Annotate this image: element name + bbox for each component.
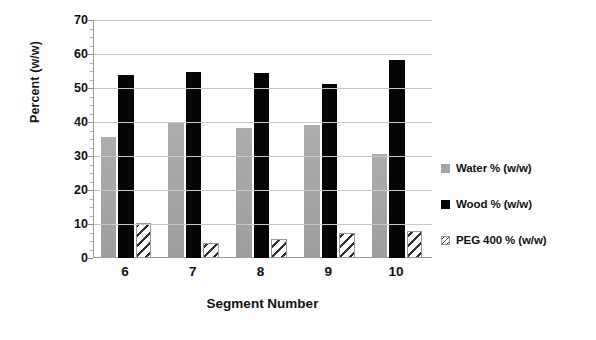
bar-water-9 bbox=[304, 125, 320, 258]
legend-item-water[interactable]: Water % (w/w) bbox=[441, 150, 593, 186]
bar-peg-10 bbox=[407, 231, 423, 258]
y-minor-tick bbox=[90, 46, 94, 47]
y-minor-tick bbox=[90, 207, 94, 208]
chart-legend: Water % (w/w)Wood % (w/w)PEG 400 % (w/w) bbox=[441, 150, 593, 258]
y-minor-tick bbox=[90, 182, 94, 183]
bar-peg-9 bbox=[339, 233, 355, 258]
y-minor-tick bbox=[90, 216, 94, 217]
y-minor-tick bbox=[90, 241, 94, 242]
bar-peg-8 bbox=[271, 239, 287, 258]
y-minor-tick bbox=[90, 173, 94, 174]
y-tick-label-50: 50 bbox=[55, 81, 88, 95]
y-major-tick-10 bbox=[87, 224, 93, 225]
y-major-tick-20 bbox=[87, 190, 93, 191]
y-major-tick-40 bbox=[87, 122, 93, 123]
bar-wood-7 bbox=[186, 72, 202, 258]
bar-wood-8 bbox=[254, 73, 270, 258]
y-major-tick-0 bbox=[87, 258, 93, 259]
gridline-10 bbox=[94, 224, 432, 225]
x-tick-label-9: 9 bbox=[325, 264, 333, 279]
y-minor-tick bbox=[90, 139, 94, 140]
y-minor-tick bbox=[90, 97, 94, 98]
bar-wood-6 bbox=[118, 75, 134, 258]
y-axis-tick-labels: 010203040506070 bbox=[55, 20, 88, 258]
x-tick-label-8: 8 bbox=[257, 264, 265, 279]
wood-swatch-icon bbox=[441, 200, 450, 209]
bar-group-6 bbox=[101, 20, 152, 258]
bar-group-9 bbox=[304, 20, 355, 258]
bar-chart: Percent (w/w) 010203040506070 678910 Seg… bbox=[0, 0, 596, 340]
gridline-60 bbox=[94, 54, 432, 55]
y-minor-tick bbox=[90, 250, 94, 251]
x-axis-tick-labels: 678910 bbox=[93, 264, 432, 286]
gridline-30 bbox=[94, 156, 432, 157]
gridline-50 bbox=[94, 88, 432, 89]
peg-swatch-icon bbox=[441, 236, 450, 245]
y-major-tick-70 bbox=[87, 20, 93, 21]
y-minor-tick bbox=[90, 63, 94, 64]
y-tick-label-20: 20 bbox=[55, 183, 88, 197]
bar-group-8 bbox=[236, 20, 287, 258]
legend-item-wood[interactable]: Wood % (w/w) bbox=[441, 186, 593, 222]
x-axis-title: Segment Number bbox=[93, 296, 432, 311]
y-tick-label-0: 0 bbox=[55, 251, 88, 265]
y-major-tick-60 bbox=[87, 54, 93, 55]
y-minor-tick bbox=[90, 37, 94, 38]
bar-groups bbox=[94, 20, 433, 258]
y-minor-tick bbox=[90, 71, 94, 72]
y-minor-tick bbox=[90, 105, 94, 106]
x-tick-label-6: 6 bbox=[121, 264, 129, 279]
y-minor-tick bbox=[90, 199, 94, 200]
y-minor-tick bbox=[90, 233, 94, 234]
y-tick-label-60: 60 bbox=[55, 47, 88, 61]
bar-water-10 bbox=[372, 154, 388, 258]
y-minor-tick bbox=[90, 131, 94, 132]
x-tick-label-10: 10 bbox=[389, 264, 404, 279]
y-axis-title: Percent (w/w) bbox=[28, 2, 42, 162]
bar-peg-6 bbox=[136, 223, 152, 258]
plot-area bbox=[93, 20, 432, 258]
gridline-70 bbox=[94, 20, 432, 21]
bar-peg-7 bbox=[203, 243, 219, 258]
legend-item-peg[interactable]: PEG 400 % (w/w) bbox=[441, 222, 593, 258]
y-tick-label-40: 40 bbox=[55, 115, 88, 129]
y-major-tick-30 bbox=[87, 156, 93, 157]
y-tick-label-30: 30 bbox=[55, 149, 88, 163]
bar-wood-9 bbox=[322, 84, 338, 258]
bar-wood-10 bbox=[389, 60, 405, 258]
gridline-20 bbox=[94, 190, 432, 191]
bar-water-8 bbox=[236, 128, 252, 258]
y-tick-label-70: 70 bbox=[55, 13, 88, 27]
y-minor-tick bbox=[90, 114, 94, 115]
bar-group-10 bbox=[372, 20, 423, 258]
y-minor-tick bbox=[90, 165, 94, 166]
gridline-40 bbox=[94, 122, 432, 123]
legend-label-wood: Wood % (w/w) bbox=[456, 198, 532, 210]
legend-label-peg: PEG 400 % (w/w) bbox=[456, 234, 547, 246]
y-major-tick-50 bbox=[87, 88, 93, 89]
x-tick-label-7: 7 bbox=[189, 264, 197, 279]
water-swatch-icon bbox=[441, 164, 450, 173]
y-tick-label-10: 10 bbox=[55, 217, 88, 231]
y-minor-tick bbox=[90, 148, 94, 149]
bar-group-7 bbox=[168, 20, 219, 258]
y-minor-tick bbox=[90, 80, 94, 81]
y-minor-tick bbox=[90, 29, 94, 30]
legend-label-water: Water % (w/w) bbox=[456, 162, 532, 174]
